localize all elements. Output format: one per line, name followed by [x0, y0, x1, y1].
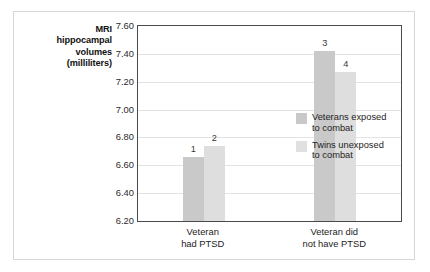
legend-swatch [296, 113, 307, 124]
legend-label-line: to combat [312, 150, 384, 161]
y-axis-tick-label: 6.60 [90, 159, 134, 170]
y-axis-tick-labels: 7.607.407.207.006.806.606.406.20 [86, 25, 134, 222]
legend-label: Veterans exposedto combat [312, 112, 386, 134]
legend-label-line: to combat [312, 123, 386, 134]
y-axis-tick-label: 7.00 [90, 103, 134, 114]
bar [183, 157, 204, 221]
y-axis-tick-label: 7.20 [90, 75, 134, 86]
chart-legend: Veterans exposedto combatTwins unexposed… [296, 112, 398, 167]
bar-value-label: 3 [322, 38, 327, 48]
x-axis-category-label-line: had PTSD [181, 238, 224, 250]
x-axis-category-label-line: not have PTSD [302, 238, 366, 250]
bar-value-label: 1 [191, 144, 196, 154]
legend-label: Twins unexposedto combat [312, 140, 384, 162]
bar-value-label: 2 [212, 133, 217, 143]
gridline [138, 193, 401, 194]
gridline [138, 110, 401, 111]
legend-swatch [296, 141, 307, 152]
legend-item: Veterans exposedto combat [296, 112, 398, 134]
legend-label-line: Twins unexposed [312, 140, 384, 151]
bar-value-label: 4 [343, 59, 348, 69]
chart-figure: MRI hippocampal volumes (milliliters) 7.… [0, 0, 430, 272]
y-axis-tick-label: 7.60 [90, 20, 134, 31]
legend-item: Twins unexposedto combat [296, 140, 398, 162]
gridline [138, 54, 401, 55]
x-axis-category-label: Veteranhad PTSD [181, 226, 224, 249]
x-axis-category-label-line: Veteran did [302, 226, 366, 238]
bar [204, 146, 225, 221]
legend-label-line: Veterans exposed [312, 112, 386, 123]
x-axis-category-label-line: Veteran [181, 226, 224, 238]
gridline [138, 82, 401, 83]
y-axis-tick-label: 6.40 [90, 187, 134, 198]
y-axis-tick-label: 6.80 [90, 131, 134, 142]
y-axis-tick-label: 7.40 [90, 47, 134, 58]
x-axis-category-label: Veteran didnot have PTSD [302, 226, 366, 249]
y-axis-tick-label: 6.20 [90, 215, 134, 226]
